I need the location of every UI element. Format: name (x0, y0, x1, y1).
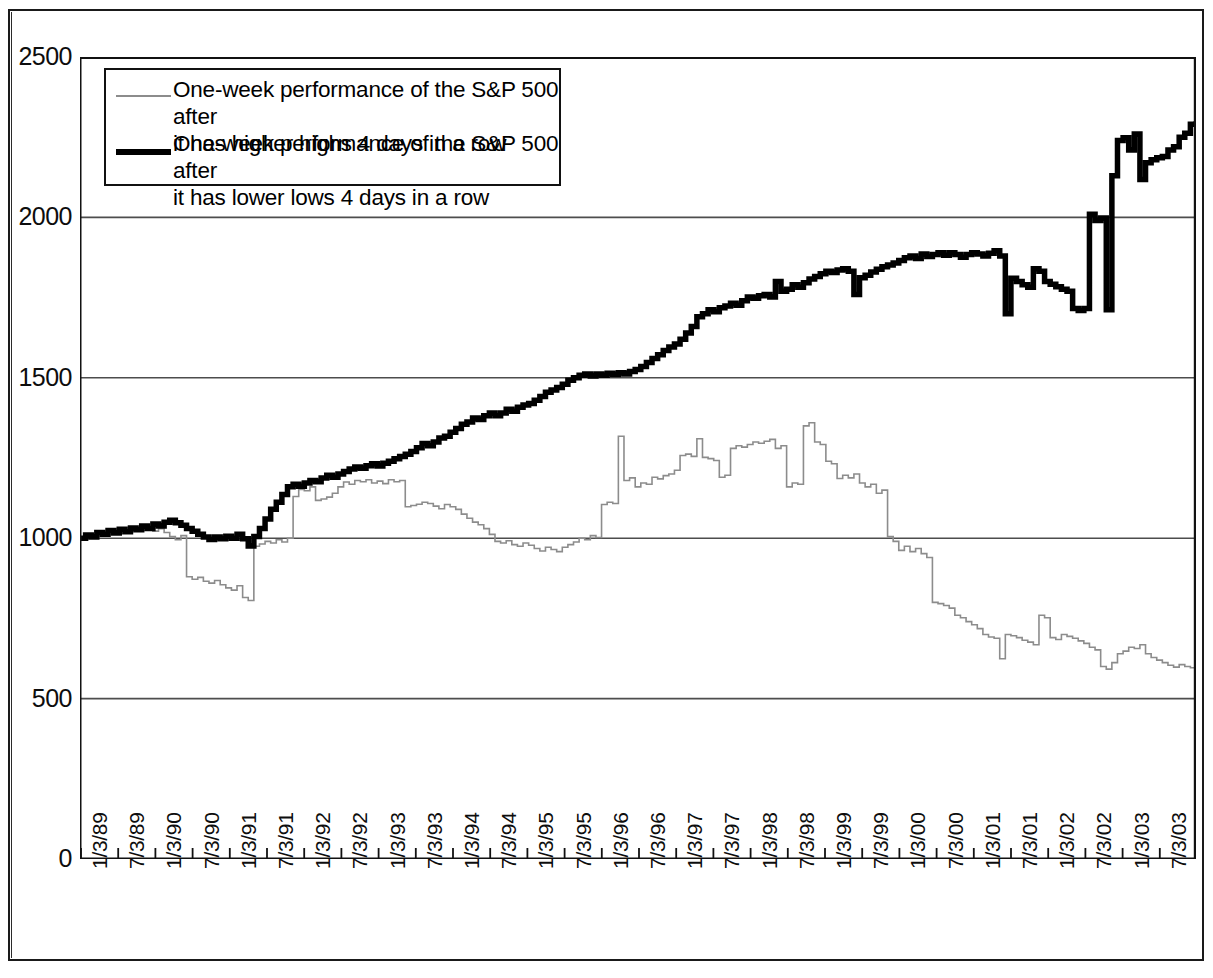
x-axis-tick-label: 1/3/96 (610, 812, 631, 869)
x-axis-tick-label: 7/3/02 (1093, 812, 1114, 869)
x-axis-tick-label: 1/3/94 (461, 812, 482, 869)
x-axis-tick-label: 1/3/99 (833, 812, 854, 869)
x-axis-tick-label: 7/3/92 (349, 812, 370, 869)
x-axis-tick-label: 1/3/90 (163, 812, 184, 869)
x-axis-tick-label: 1/3/03 (1131, 812, 1152, 869)
x-axis-tick-label: 1/3/95 (535, 812, 556, 869)
x-axis-tick-label: 7/3/01 (1019, 812, 1040, 869)
x-axis-tick-label: 1/3/93 (387, 812, 408, 869)
x-axis-tick-label: 1/3/98 (759, 812, 780, 869)
x-axis-tick-label: 7/3/91 (275, 812, 296, 869)
chart-legend: One-week performance of the S&P 500 afte… (104, 68, 561, 186)
x-axis-tick-label: 7/3/94 (498, 812, 519, 869)
thin-line-swatch-icon (114, 85, 173, 105)
x-axis-tick-label: 1/3/89 (89, 812, 110, 869)
x-axis-tick-label: 7/3/95 (573, 812, 594, 869)
x-axis-tick-label: 1/3/97 (684, 812, 705, 869)
x-axis-tick-label: 7/3/03 (1168, 812, 1189, 869)
legend-item-lower-lows: One-week performance of the S&P 500 afte… (114, 130, 559, 211)
x-axis-tick-label: 7/3/98 (796, 812, 817, 869)
x-axis-tick-label: 7/3/96 (647, 812, 668, 869)
x-axis-tick-label: 1/3/01 (982, 812, 1003, 869)
x-axis-tick-label: 1/3/02 (1056, 812, 1077, 869)
x-axis-tick-label: 7/3/97 (721, 812, 742, 869)
x-axis-tick-label: 7/3/93 (424, 812, 445, 869)
x-axis-tick-label: 1/3/92 (312, 812, 333, 869)
thick-line-swatch-icon (114, 139, 173, 159)
legend-label-lower-lows: One-week performance of the S&P 500 afte… (173, 130, 559, 211)
chart-figure: 05001000150020002500 1/3/897/3/891/3/907… (0, 0, 1213, 978)
x-axis-tick-label: 1/3/00 (907, 812, 928, 869)
x-axis-tick-label: 7/3/90 (201, 812, 222, 869)
x-axis-tick-label: 7/3/99 (870, 812, 891, 869)
x-axis-tick-label: 7/3/00 (945, 812, 966, 869)
x-axis-tick-label: 1/3/91 (238, 812, 259, 869)
x-axis-tick-label: 7/3/89 (126, 812, 147, 869)
